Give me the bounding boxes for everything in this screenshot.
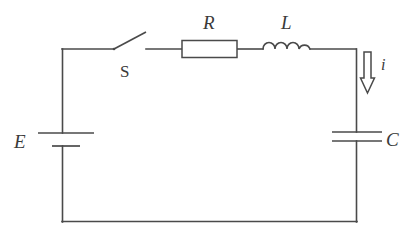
battery-symbol — [38, 133, 94, 146]
label-resistor: R — [202, 12, 215, 33]
circuit-schematic-canvas: E S R L C i — [0, 0, 410, 236]
switch-symbol[interactable] — [113, 32, 146, 50]
label-switch: S — [120, 62, 129, 81]
inductor-coils — [263, 43, 310, 50]
capacitor-symbol — [332, 132, 382, 141]
current-arrow-icon — [361, 52, 375, 93]
resistor-symbol — [182, 41, 237, 58]
label-current: i — [381, 56, 385, 73]
current-arrow-shape — [361, 52, 375, 93]
circuit-wires — [62, 49, 357, 222]
switch-lever — [114, 32, 146, 49]
label-inductor: L — [280, 12, 292, 33]
inductor-symbol — [263, 43, 310, 50]
circuit-diagram: E S R L C i — [0, 0, 410, 236]
label-source: E — [13, 131, 26, 152]
label-capacitor: C — [386, 129, 399, 150]
resistor-body — [182, 41, 237, 58]
